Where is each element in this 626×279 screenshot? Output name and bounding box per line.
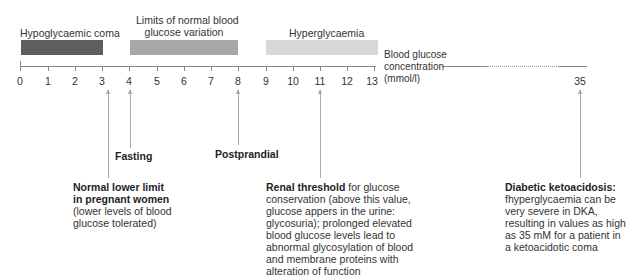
annotation-renal-line: blood glucose levels lead to (266, 229, 413, 241)
axis-tick (75, 66, 76, 71)
annotation-pregnant-body1: (lower levels of blood (73, 205, 172, 217)
tick-label: 9 (256, 75, 276, 87)
axis-title: Blood glucose concentration (mmol/l) (384, 49, 447, 85)
tick-label: 11 (310, 75, 330, 87)
annotation-renal-line: and membrane proteins with (266, 253, 413, 265)
annotation-renal-line: alteration of function (266, 265, 413, 277)
annotation-pregnant: Normal lower limit in pregnant women (lo… (73, 181, 172, 229)
annotation-renal-line: abnormal glycosylation of blood (266, 241, 413, 253)
axis-tick (374, 66, 375, 71)
annotation-pregnant-body2: glucose tolerated) (73, 217, 172, 229)
zone-label-hypoglycaemic-coma: Hypoglycaemic coma (20, 27, 120, 39)
tick-label: 13 (362, 75, 382, 87)
tick-label: 4 (119, 75, 139, 87)
axis-tick (157, 66, 158, 71)
zone-bar-hyperglycaemia (266, 40, 378, 55)
axis-tick (266, 66, 267, 71)
arrow-postprandial (238, 90, 239, 145)
axis-tick (48, 66, 49, 71)
tick-label: 8 (228, 75, 248, 87)
tick-label: 0 (10, 75, 30, 87)
axis-line-extension (442, 66, 487, 67)
annotation-dka-title: Diabetic ketoacidosis: (505, 181, 626, 193)
tick-label: 1 (38, 75, 58, 87)
annotation-renal-title-suffix: for glucose (345, 181, 399, 193)
annotation-dka: Diabetic ketoacidosis: fhyperglycaemia c… (505, 181, 626, 253)
axis-line-main (20, 66, 376, 67)
zone-label-normal-line1: Limits of normal blood (136, 14, 232, 26)
tick-label: 6 (174, 75, 194, 87)
annotation-renal-threshold: Renal threshold for glucose conservation… (266, 181, 413, 277)
arrow-pregnant-lower-limit (108, 90, 109, 178)
tick-label-far: 35 (570, 75, 590, 87)
tick-label: 2 (65, 75, 85, 87)
axis-tick (211, 66, 212, 71)
axis-tick (293, 66, 294, 71)
zone-bar-hypoglycaemic-coma (21, 40, 103, 55)
annotation-fasting: Fasting (115, 150, 152, 162)
tick-label: 12 (337, 75, 357, 87)
axis-title-line3: (mmol/l) (384, 73, 447, 85)
annotation-pregnant-title2: in pregnant women (73, 193, 172, 205)
annotation-renal-line: conservation (above this value, (266, 193, 413, 205)
annotation-dka-line: very severe in DKA, (505, 205, 626, 217)
annotation-postprandial: Postprandial (215, 148, 279, 160)
zone-bar-normal-variation (130, 40, 238, 55)
arrow-fasting (130, 90, 131, 148)
arrow-dka (580, 90, 581, 178)
tick-label: 3 (92, 75, 112, 87)
tick-label: 7 (201, 75, 221, 87)
axis-tick (102, 66, 103, 71)
axis-break-dotted (487, 66, 559, 67)
tick-label: 10 (283, 75, 303, 87)
axis-origin-tick (20, 61, 21, 71)
annotation-renal-line: glucose appers in the urine: (266, 205, 413, 217)
arrow-renal-threshold (320, 90, 321, 178)
axis-line-extension-end (559, 66, 587, 67)
axis-tick (238, 66, 239, 71)
axis-title-line2: concentration (384, 61, 447, 73)
zone-label-normal-variation: Limits of normal blood glucose variation (136, 14, 232, 38)
annotation-renal-title: Renal threshold (266, 181, 345, 193)
annotation-dka-line: as 35 mM for a patient in (505, 229, 626, 241)
axis-title-line1: Blood glucose (384, 49, 447, 61)
zone-label-hyperglycaemia: Hyperglycaemia (289, 27, 364, 39)
annotation-pregnant-title1: Normal lower limit (73, 181, 172, 193)
axis-tick (347, 66, 348, 71)
axis-tick (129, 66, 130, 71)
axis-tick (184, 66, 185, 71)
zone-label-normal-line2: glucose variation (136, 26, 232, 38)
annotation-dka-line: resulting in values as high (505, 217, 626, 229)
annotation-renal-line: glycosuria); prolonged elevated (266, 217, 413, 229)
annotation-dka-line: a ketoacidotic coma (505, 241, 626, 253)
tick-label: 5 (147, 75, 167, 87)
annotation-dka-line: fhyperglycaemia can be (505, 193, 626, 205)
axis-tick (320, 66, 321, 71)
